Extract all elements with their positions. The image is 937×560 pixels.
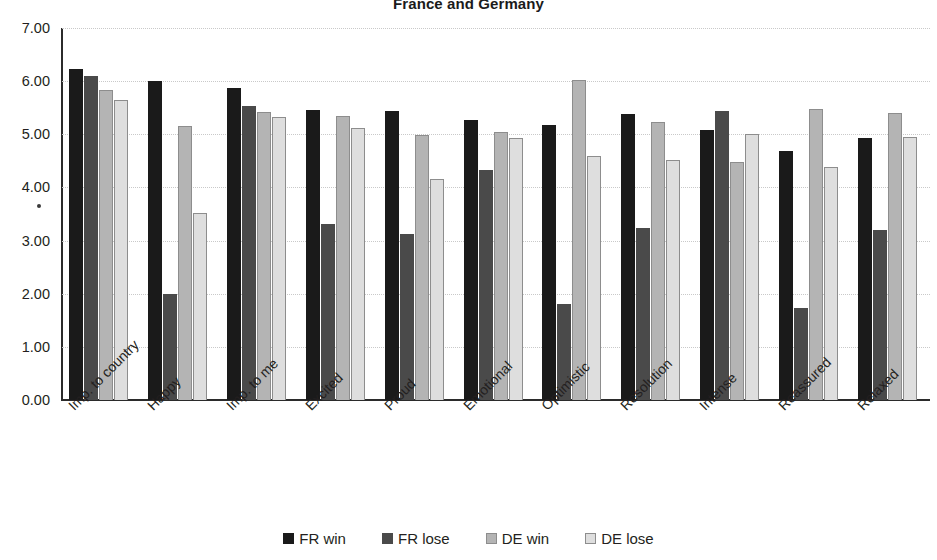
bar[interactable]	[858, 138, 872, 400]
chart-title: France and Germany	[0, 0, 937, 12]
y-axis-tick-label: 5.00	[22, 126, 50, 142]
bar[interactable]	[272, 117, 286, 400]
bar[interactable]	[479, 170, 493, 400]
bar-group	[141, 28, 220, 400]
chart-legend: FR winFR loseDE winDE lose	[0, 530, 937, 547]
legend-label: DE lose	[601, 530, 654, 547]
bar[interactable]	[193, 213, 207, 400]
y-axis-tick-label: 0.00	[22, 392, 50, 408]
legend-swatch-icon	[585, 533, 596, 544]
legend-swatch-icon	[382, 533, 393, 544]
bar-group	[693, 28, 772, 400]
bar[interactable]	[84, 76, 98, 400]
bar[interactable]	[385, 111, 399, 400]
bar-group	[535, 28, 614, 400]
bar[interactable]	[430, 179, 444, 400]
bar[interactable]	[542, 125, 556, 400]
y-axis-tick-label: 7.00	[22, 20, 50, 36]
bar-groups	[62, 28, 930, 400]
bar[interactable]	[148, 81, 162, 400]
bar-group	[772, 28, 851, 400]
y-axis-tick-label: 3.00	[22, 233, 50, 249]
plot-area	[62, 28, 930, 400]
bar-group	[614, 28, 693, 400]
bar-group	[220, 28, 299, 400]
y-axis-tick-label: 4.00	[22, 179, 50, 195]
bar[interactable]	[572, 80, 586, 400]
bar[interactable]	[227, 88, 241, 400]
legend-swatch-icon	[486, 533, 497, 544]
bar[interactable]	[69, 69, 83, 400]
bar[interactable]	[415, 135, 429, 400]
y-axis-tick-label: 6.00	[22, 73, 50, 89]
bar[interactable]	[99, 90, 113, 400]
legend-swatch-icon	[283, 533, 294, 544]
legend-label: DE win	[502, 530, 550, 547]
bar-group	[378, 28, 457, 400]
bar[interactable]	[621, 114, 635, 400]
bar[interactable]	[779, 151, 793, 400]
bar[interactable]	[464, 120, 478, 400]
bar[interactable]	[730, 162, 744, 400]
stray-dot-artifact	[37, 204, 41, 208]
bar[interactable]	[587, 156, 601, 400]
y-axis-tick-label: 1.00	[22, 339, 50, 355]
bar[interactable]	[336, 116, 350, 400]
chart-root: France and Germany 7.006.005.004.003.002…	[0, 0, 937, 560]
legend-item[interactable]: FR lose	[382, 530, 450, 547]
bar[interactable]	[700, 130, 714, 400]
x-axis-category-labels: Imp. to countryHappyImp. to meExcitedPro…	[62, 402, 930, 522]
legend-item[interactable]: DE win	[486, 530, 550, 547]
bar[interactable]	[242, 106, 256, 400]
legend-item[interactable]: FR win	[283, 530, 346, 547]
bar[interactable]	[745, 134, 759, 400]
bar-group	[851, 28, 930, 400]
legend-label: FR lose	[398, 530, 450, 547]
bar[interactable]	[178, 126, 192, 400]
bar[interactable]	[351, 128, 365, 400]
bar[interactable]	[509, 138, 523, 400]
bar[interactable]	[903, 137, 917, 400]
bar-group	[457, 28, 536, 400]
y-axis-tick-labels: 7.006.005.004.003.002.001.000.00	[0, 28, 58, 400]
bar[interactable]	[888, 113, 902, 400]
legend-item[interactable]: DE lose	[585, 530, 654, 547]
bar-group	[299, 28, 378, 400]
bar[interactable]	[715, 111, 729, 400]
bar[interactable]	[306, 110, 320, 400]
legend-label: FR win	[299, 530, 346, 547]
y-axis-tick-label: 2.00	[22, 286, 50, 302]
